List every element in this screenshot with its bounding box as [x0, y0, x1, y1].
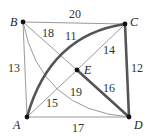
- weight-c-e: 14: [103, 44, 115, 56]
- vertex-c: [123, 22, 128, 27]
- weight-e-d: 16: [103, 82, 115, 94]
- weight-a-e: 15: [46, 97, 58, 109]
- vertex-e: [75, 68, 80, 73]
- weight-a-c: 11: [65, 30, 77, 42]
- weight-c-d: 12: [131, 62, 143, 74]
- weight-b-e: 18: [42, 27, 54, 39]
- vertex-label-b: B: [10, 16, 17, 28]
- weight-b-c: 20: [69, 8, 81, 20]
- vertex-label-e: E: [84, 64, 91, 76]
- vertex-label-d: D: [134, 119, 143, 131]
- vertex-label-a: A: [13, 119, 20, 131]
- vertex-label-c: C: [130, 16, 138, 28]
- weight-b-d: 19: [70, 86, 82, 98]
- graph-diagram: B C E A D 20 13 17 12 18 11 14 15 16 19: [0, 0, 151, 136]
- vertex-a: [25, 115, 30, 120]
- vertex-b: [21, 20, 26, 25]
- weight-a-b: 13: [8, 62, 20, 74]
- vertex-d: [127, 115, 132, 120]
- edge-b-c: [23, 22, 125, 24]
- edge-c-d: [125, 24, 129, 117]
- weight-a-d: 17: [72, 122, 84, 134]
